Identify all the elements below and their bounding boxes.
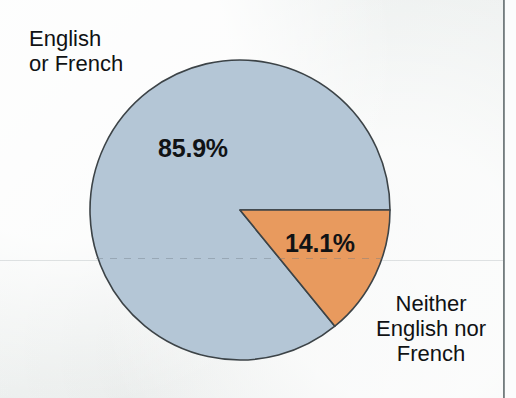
slice-category-label-minor: Neither English nor French bbox=[376, 291, 486, 366]
slice-category-label-major: English or French bbox=[29, 26, 123, 76]
pie-chart-page: 85.9% 14.1% English or French Neither En… bbox=[0, 0, 516, 398]
slice-category-label-minor-line3: French bbox=[376, 341, 486, 366]
slice-category-label-minor-line2: English nor bbox=[376, 316, 486, 341]
slice-value-label-major: 85.9% bbox=[158, 134, 228, 163]
slice-category-label-minor-line1: Neither bbox=[376, 291, 486, 316]
slice-category-label-major-line2: or French bbox=[29, 51, 123, 76]
slice-category-label-major-line1: English bbox=[29, 26, 123, 51]
slice-value-label-minor: 14.1% bbox=[285, 229, 355, 258]
page-edge-gutter bbox=[505, 0, 516, 398]
pie-chart: 85.9% 14.1% English or French Neither En… bbox=[0, 0, 516, 398]
pie-chart-svg bbox=[89, 59, 391, 361]
